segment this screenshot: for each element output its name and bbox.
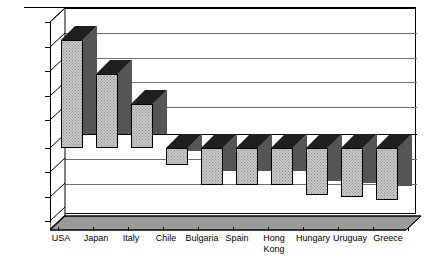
bar-usa: [61, 26, 97, 152]
xlabel-greece: Greece: [366, 233, 410, 244]
xlabel-italy: Italy: [113, 233, 149, 244]
xtick-8: [338, 227, 339, 231]
xtick-0: [58, 227, 59, 231]
xtick-5: [233, 227, 234, 231]
xtick-1: [93, 227, 94, 231]
xlabel-hong-kong: Hong Kong: [254, 233, 294, 255]
xlabel-spain: Spain: [218, 233, 256, 244]
xtick-6: [268, 227, 269, 231]
xlabel-hong-kong-line2: Kong: [254, 244, 294, 255]
chart-figure: 50.0 40.0 30.0 20.0 10.0 0.0 -10.0 -20.0…: [0, 0, 440, 269]
bar-hong-kong: [271, 134, 307, 186]
xtick-4: [198, 227, 199, 231]
xlabel-japan-line1: Japan: [78, 233, 114, 244]
bar-greece: [376, 134, 412, 202]
bar-chile: [166, 134, 202, 166]
xlabel-chile-line1: Chile: [148, 233, 184, 244]
bar-chart-3d: 50.0 40.0 30.0 20.0 10.0 0.0 -10.0 -20.0…: [0, 0, 440, 269]
xtick-2: [128, 227, 129, 231]
bar-hungary: [306, 134, 342, 196]
xlabel-italy-line1: Italy: [113, 233, 149, 244]
bar-spain: [236, 134, 272, 186]
bar-japan: [96, 60, 132, 152]
xtick-7: [303, 227, 304, 231]
bar-italy: [131, 90, 167, 152]
bar-bulgaria: [201, 134, 237, 186]
xlabel-usa: USA: [43, 233, 79, 244]
xtick-3: [163, 227, 164, 231]
xlabel-japan: Japan: [78, 233, 114, 244]
xlabel-hong-kong-line1: Hong: [254, 233, 294, 244]
bar-series: [0, 0, 440, 269]
xlabel-greece-line1: Greece: [366, 233, 410, 244]
xlabel-usa-line1: USA: [43, 233, 79, 244]
xtick-9: [373, 227, 374, 231]
xlabel-spain-line1: Spain: [218, 233, 256, 244]
xtick-10: [408, 227, 409, 231]
xlabel-chile: Chile: [148, 233, 184, 244]
bar-uruguay: [341, 134, 377, 198]
